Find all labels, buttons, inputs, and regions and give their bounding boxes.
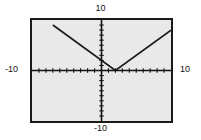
axis-label-top: 10 <box>0 4 201 13</box>
axis-label-bottom: -10 <box>0 124 201 133</box>
plot-frame <box>30 18 173 123</box>
axis-label-left: -10 <box>5 65 18 74</box>
graphing-calculator-screen: 10 -10 10 -10 <box>0 0 201 140</box>
function-curve <box>53 25 171 70</box>
graph-canvas <box>32 20 171 121</box>
axis-label-right: 10 <box>180 65 190 74</box>
